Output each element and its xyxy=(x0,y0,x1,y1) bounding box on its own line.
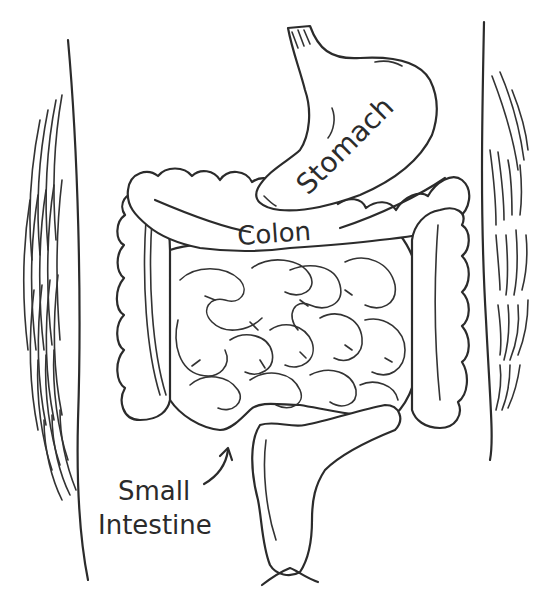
small-intestine-label-line1: Small xyxy=(118,476,190,506)
small-intestine-label-line2: Intestine xyxy=(98,510,212,540)
rectum xyxy=(252,405,400,585)
small-intestine-pointer-arrow-icon xyxy=(204,448,232,484)
stomach xyxy=(256,26,437,210)
digestive-system-diagram: Stomach Colon Small Intestine xyxy=(0,0,556,592)
small-intestine xyxy=(166,235,422,430)
colon-label: Colon xyxy=(236,216,312,251)
right-body-wall xyxy=(482,22,528,460)
left-body-wall xyxy=(24,40,88,580)
